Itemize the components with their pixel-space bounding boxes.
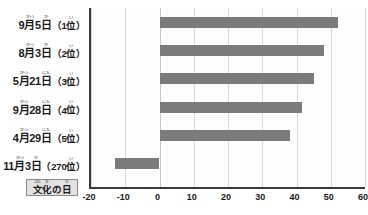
- date-part-2-base: 月: [19, 105, 30, 116]
- date-part-2-base: 月: [19, 133, 30, 144]
- close-paren: ）: [76, 128, 86, 144]
- date-part-4: にち日: [41, 100, 52, 116]
- holiday-part-1: ぶん文: [33, 181, 43, 195]
- bar-6: [115, 158, 160, 169]
- x-tick-label--10: -10: [117, 192, 130, 202]
- date-part-2-furigana: がつ: [20, 100, 28, 105]
- date-part-3: 21: [29, 71, 41, 87]
- date-part-2: がつ月: [19, 128, 30, 144]
- rank-unit-furigana: い: [69, 16, 73, 21]
- holiday-part-1-furigana: ぶん: [34, 181, 42, 185]
- open-paren: （: [52, 100, 62, 116]
- category-label-3: 5がつ月21にち日（3い位）: [13, 70, 86, 88]
- date-part-4-base: 日: [41, 76, 52, 87]
- date-part-4-furigana: か: [34, 156, 38, 161]
- date-part-3-base: 28: [29, 100, 41, 116]
- x-tick-label-50: 50: [324, 192, 334, 202]
- date-part-4-furigana: か: [44, 43, 48, 48]
- x-tick-label--20: -20: [82, 192, 95, 202]
- date-part-3: 28: [29, 100, 41, 116]
- x-tick-label-10: 10: [187, 192, 197, 202]
- date-part-4: にち日: [41, 128, 52, 144]
- holiday-part-4: ひ日: [62, 181, 72, 195]
- gridline-30: [262, 8, 263, 187]
- date-part-4-base: 日: [41, 48, 52, 59]
- date-part-2: がつ月: [14, 156, 25, 172]
- date-part-2: がつ月: [24, 15, 35, 31]
- gridline-0: [160, 8, 161, 187]
- close-paren: ）: [76, 15, 86, 31]
- date-part-2-base: 月: [24, 20, 35, 31]
- date-part-4: か日: [41, 15, 52, 31]
- holiday-tag-bunka-no-hi: ぶん文か化のひ日: [26, 179, 78, 196]
- close-paren: ）: [76, 43, 86, 59]
- rank-unit: い位: [66, 44, 76, 59]
- gridline-20: [228, 8, 229, 187]
- date-part-1-base: 11: [3, 156, 14, 172]
- close-paren: ）: [76, 156, 86, 172]
- holiday-part-2-base: 化: [42, 185, 52, 195]
- gridline-10: [194, 8, 195, 187]
- rank-unit-furigana: い: [69, 100, 73, 105]
- category-axis: 9がつ月5か日（1い位）8がつ月3か日（2い位）5がつ月21にち日（3い位）9が…: [0, 8, 89, 189]
- bar-2: [160, 45, 324, 56]
- date-part-4-furigana: にち: [42, 128, 50, 133]
- holiday-part-2-furigana: か: [45, 181, 49, 185]
- open-paren: （: [52, 128, 62, 144]
- holiday-part-4-base: 日: [62, 185, 72, 195]
- rank-unit: い位: [66, 157, 76, 172]
- category-label-4: 9がつ月28にち日（4い位）: [13, 99, 86, 117]
- rank-unit-furigana: い: [69, 44, 73, 49]
- x-tick-label-60: 60: [358, 192, 368, 202]
- rank-unit-furigana: い: [69, 129, 73, 134]
- rank-unit: い位: [66, 100, 76, 115]
- x-axis: -20-100102030405060: [89, 192, 365, 208]
- date-part-2: がつ月: [19, 100, 30, 116]
- date-part-2-furigana: がつ: [16, 156, 24, 161]
- rank-unit: い位: [66, 72, 76, 87]
- rank-unit-base: 位: [66, 21, 76, 31]
- holiday-part-4-furigana: ひ: [65, 181, 69, 185]
- category-label-1: 9がつ月5か日（1い位）: [19, 14, 86, 32]
- category-label-6: 11がつ月3か日（270い位）: [3, 155, 86, 173]
- date-part-2-base: 月: [19, 76, 30, 87]
- rank-unit-base: 位: [66, 162, 76, 172]
- date-part-4-base: 日: [41, 133, 52, 144]
- gridline-60: [365, 8, 366, 187]
- x-tick-label-30: 30: [255, 192, 265, 202]
- bar-chart: 9がつ月5か日（1い位）8がつ月3か日（2い位）5がつ月21にち日（3い位）9が…: [0, 0, 368, 215]
- bar-3: [160, 73, 314, 84]
- holiday-part-3-base: の: [52, 181, 62, 195]
- date-part-2-furigana: がつ: [20, 72, 28, 77]
- date-part-3: 29: [29, 128, 41, 144]
- x-tick-label-20: 20: [221, 192, 231, 202]
- date-part-4: か日: [41, 43, 52, 59]
- holiday-part-1-base: 文: [33, 185, 43, 195]
- date-part-4-base: 日: [31, 161, 42, 172]
- gridline-50: [331, 8, 332, 187]
- date-part-4-furigana: にち: [42, 100, 50, 105]
- rank-unit: い位: [66, 129, 76, 144]
- gridline--20: [91, 8, 92, 187]
- plot-area: [89, 8, 365, 189]
- date-part-4-base: 日: [41, 105, 52, 116]
- open-paren: （: [52, 71, 62, 87]
- bar-5: [160, 130, 290, 141]
- date-part-2-base: 月: [24, 48, 35, 59]
- rank-unit-furigana: い: [69, 157, 73, 162]
- date-part-4: か日: [31, 156, 42, 172]
- rank-unit-base: 位: [66, 105, 76, 115]
- rank-unit-base: 位: [66, 77, 76, 87]
- date-part-4: にち日: [41, 71, 52, 87]
- rank-unit-furigana: い: [69, 72, 73, 77]
- date-part-1: 11: [3, 156, 14, 172]
- gridline-40: [297, 8, 298, 187]
- bar-1: [160, 17, 338, 28]
- close-paren: ）: [76, 71, 86, 87]
- rank-number: 270: [51, 156, 66, 172]
- date-part-2: がつ月: [19, 71, 30, 87]
- holiday-part-2: か化: [42, 181, 52, 195]
- date-part-2-furigana: がつ: [20, 128, 28, 133]
- date-part-2-base: 月: [14, 161, 25, 172]
- x-tick-label-0: 0: [155, 192, 160, 202]
